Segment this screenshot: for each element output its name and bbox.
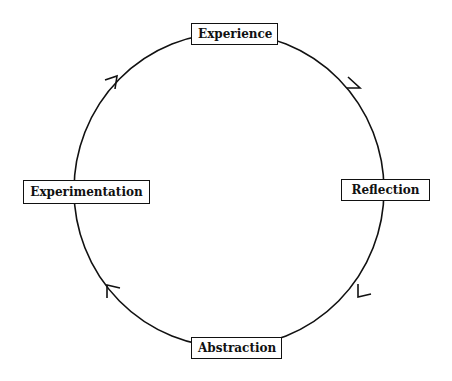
node-abstraction: Abstraction xyxy=(191,337,282,359)
node-reflection: Reflection xyxy=(341,179,430,201)
node-experience: Experience xyxy=(191,23,278,45)
arrow-experience-to-reflection xyxy=(347,77,360,88)
node-experimentation: Experimentation xyxy=(23,180,150,204)
arrow-abstraction-to-experimentation xyxy=(107,285,120,298)
arrow-reflection-to-abstraction xyxy=(358,284,371,297)
